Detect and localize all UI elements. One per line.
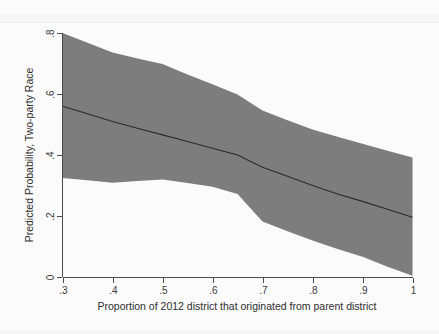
confidence-interval-band (63, 33, 413, 276)
y-tick-label: .2 (45, 212, 56, 221)
plot-area: .3.4.5.6.7.8.91 0.2.4.6.8 Proportion of … (0, 0, 439, 334)
x-tick-label: .8 (309, 285, 318, 296)
y-tick-label: 0 (45, 274, 56, 280)
x-tick-label: .4 (109, 285, 118, 296)
x-axis-ticks: .3.4.5.6.7.8.91 (59, 278, 416, 297)
chart-figure: .3.4.5.6.7.8.91 0.2.4.6.8 Proportion of … (0, 0, 439, 334)
x-tick-label: .3 (59, 285, 68, 296)
y-tick-label: .6 (45, 90, 56, 99)
x-tick-label: .7 (259, 285, 268, 296)
x-tick-label: .5 (159, 285, 168, 296)
y-axis-title: Predicted Probability, Two-party Race (23, 68, 35, 243)
y-tick-label: .8 (45, 29, 56, 38)
x-tick-label: .6 (209, 285, 218, 296)
y-tick-label: .4 (45, 151, 56, 160)
x-tick-label: .9 (359, 285, 368, 296)
x-axis-title: Proportion of 2012 district that origina… (98, 300, 377, 312)
x-tick-label: 1 (411, 285, 417, 296)
y-axis-ticks: 0.2.4.6.8 (45, 29, 62, 280)
